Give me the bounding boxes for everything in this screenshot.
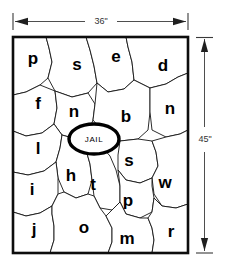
height-dimension-label: 45"	[198, 134, 211, 144]
cell-label-l: l	[36, 139, 41, 158]
cell-label-p-top: p	[28, 49, 38, 68]
width-dimension: 36"	[13, 13, 188, 30]
cell-label-j: j	[31, 220, 37, 239]
cell-label-o: o	[79, 218, 89, 237]
cell-label-t: t	[90, 175, 96, 194]
cell-label-r: r	[168, 222, 175, 241]
height-dimension-arrow-bottom	[201, 238, 208, 251]
cell-label-m: m	[119, 229, 134, 248]
cell-label-p-bottom: p	[123, 191, 133, 210]
width-dimension-arrow-left	[15, 18, 28, 25]
cell-region-w	[152, 130, 188, 208]
jail-oval-label: JAIL	[85, 135, 103, 144]
cell-label-h: h	[66, 166, 76, 185]
cell-label-b: b	[121, 107, 131, 126]
floor-plan-svg: 36" 45"	[0, 0, 225, 264]
height-dimension: 45"	[196, 38, 213, 254]
cell-label-s-mid: s	[124, 151, 133, 170]
width-dimension-arrow-right	[173, 18, 186, 25]
cell-label-n-left: n	[69, 102, 79, 121]
cell-label-i: i	[30, 180, 35, 199]
width-dimension-label: 36"	[94, 16, 107, 26]
jail-floor-plan-figure: 36" 45"	[0, 0, 225, 264]
cell-label-d-top: d	[158, 56, 168, 75]
jail-marker: JAIL	[69, 124, 119, 154]
cell-label-w: w	[157, 173, 172, 192]
height-dimension-arrow-top	[201, 39, 208, 52]
cell-label-e-top: e	[111, 47, 120, 66]
cell-label-n-right: n	[165, 99, 175, 118]
cell-label-s-top: s	[72, 55, 81, 74]
cell-label-f: f	[35, 94, 41, 113]
